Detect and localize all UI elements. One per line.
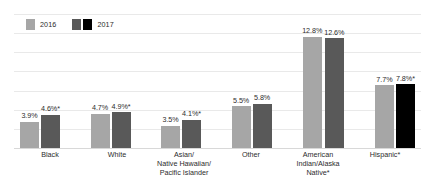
bar-2016[interactable] bbox=[375, 85, 394, 148]
bar-column: 4.6%* bbox=[41, 14, 60, 148]
bar-groups: 3.9%4.6%*4.7%4.9%*3.5%4.1%*5.5%5.8%12.8%… bbox=[14, 14, 421, 148]
bar-column: 12.6% bbox=[324, 14, 344, 148]
bar-2016[interactable] bbox=[161, 126, 180, 149]
category-label-line: White bbox=[87, 150, 147, 159]
bar-column: 7.7% bbox=[375, 14, 394, 148]
bar-value-label: 12.6% bbox=[324, 28, 344, 37]
category-label-line: Other bbox=[221, 150, 281, 159]
bar-group: 4.7%4.9%* bbox=[91, 14, 131, 148]
legend-entry-2017[interactable]: 2017 bbox=[72, 19, 113, 30]
legend-swatch-2016 bbox=[26, 19, 35, 30]
bar-value-label: 4.1%* bbox=[182, 109, 201, 118]
category-label-line: Hispanic* bbox=[355, 150, 415, 159]
bar-2017[interactable] bbox=[112, 112, 131, 148]
bar-value-label: 7.8%* bbox=[396, 74, 415, 83]
plot-area: 3.9%4.6%*4.7%4.9%*3.5%4.1%*5.5%5.8%12.8%… bbox=[14, 14, 421, 148]
category-label: AmericanIndian/AlaskaNative* bbox=[288, 150, 348, 178]
gridline bbox=[14, 148, 421, 149]
legend-swatch-2017-gray bbox=[72, 19, 81, 30]
chart-legend: 2016 2017 bbox=[26, 19, 114, 30]
bar-value-label: 12.8% bbox=[302, 26, 322, 35]
bar-value-label: 3.5% bbox=[162, 115, 178, 124]
bar-group: 3.5%4.1%* bbox=[161, 14, 201, 148]
category-label-line: Native Hawaiian/ bbox=[154, 159, 214, 168]
bar-chart: 2016 2017 3.9%4.6%*4.7%4.9%*3.5%4.1%*5.5… bbox=[0, 0, 433, 193]
category-label-line: American bbox=[288, 150, 348, 159]
bar-column: 5.5% bbox=[232, 14, 251, 148]
bar-column: 3.5% bbox=[161, 14, 180, 148]
bar-2017[interactable] bbox=[182, 120, 201, 148]
bar-group: 3.9%4.6%* bbox=[20, 14, 60, 148]
category-label-line: Native* bbox=[288, 168, 348, 177]
category-label: Other bbox=[221, 150, 281, 178]
bar-2016[interactable] bbox=[20, 122, 39, 148]
bar-value-label: 4.9%* bbox=[112, 102, 131, 111]
bar-group: 5.5%5.8% bbox=[232, 14, 272, 148]
bar-2017[interactable] bbox=[396, 84, 415, 148]
legend-entry-2016[interactable]: 2016 bbox=[26, 19, 56, 30]
bar-column: 3.9% bbox=[20, 14, 39, 148]
legend-label-2016: 2016 bbox=[40, 20, 56, 29]
bar-value-label: 3.9% bbox=[21, 111, 37, 120]
category-label: Asian/Native Hawaiian/Pacific Islander bbox=[154, 150, 214, 178]
bar-group: 7.7%7.8%* bbox=[375, 14, 415, 148]
bar-column: 4.7% bbox=[91, 14, 110, 148]
bar-column: 4.9%* bbox=[112, 14, 131, 148]
category-label: White bbox=[87, 150, 147, 178]
category-label-line: Black bbox=[20, 150, 80, 159]
bar-value-label: 5.5% bbox=[233, 96, 249, 105]
bar-value-label: 4.6%* bbox=[41, 104, 60, 113]
bar-2016[interactable] bbox=[91, 114, 110, 148]
bar-2017[interactable] bbox=[253, 104, 272, 148]
bar-2016[interactable] bbox=[303, 37, 322, 148]
category-axis-labels: BlackWhiteAsian/Native Hawaiian/Pacific … bbox=[14, 150, 421, 178]
bar-column: 7.8%* bbox=[396, 14, 415, 148]
bar-column: 12.8% bbox=[302, 14, 322, 148]
category-label-line: Asian/ bbox=[154, 150, 214, 159]
bar-value-label: 4.7% bbox=[92, 103, 108, 112]
bar-column: 5.8% bbox=[253, 14, 272, 148]
bar-2016[interactable] bbox=[232, 106, 251, 148]
bar-value-label: 5.8% bbox=[254, 93, 270, 102]
bar-2017[interactable] bbox=[325, 38, 344, 148]
legend-swatch-2017-black bbox=[83, 19, 92, 30]
legend-label-2017: 2017 bbox=[97, 20, 113, 29]
bar-group: 12.8%12.6% bbox=[302, 14, 344, 148]
bar-2017[interactable] bbox=[41, 115, 60, 148]
category-label: Black bbox=[20, 150, 80, 178]
category-label-line: Pacific Islander bbox=[154, 168, 214, 177]
bar-column: 4.1%* bbox=[182, 14, 201, 148]
bar-value-label: 7.7% bbox=[376, 75, 392, 84]
category-label: Hispanic* bbox=[355, 150, 415, 178]
category-label-line: Indian/Alaska bbox=[288, 159, 348, 168]
